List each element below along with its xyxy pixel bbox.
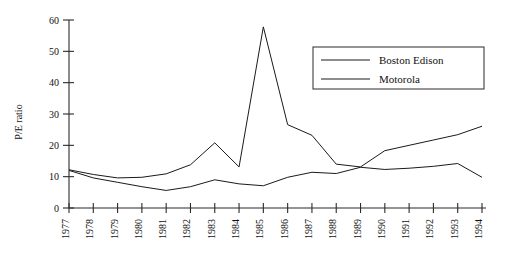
chart-canvas: 0102030405060197719781979198019811982198… (0, 0, 507, 266)
legend-label-boston-edison: Boston Edison (379, 54, 444, 66)
y-tick-label: 40 (49, 77, 59, 88)
y-tick-label: 50 (49, 46, 59, 57)
x-tick-label: 1981 (157, 219, 168, 239)
pe-ratio-line-chart: 0102030405060197719781979198019811982198… (0, 0, 507, 266)
y-tick-label: 0 (54, 203, 59, 214)
x-tick-label: 1991 (400, 219, 411, 239)
y-tick-label: 10 (49, 171, 59, 182)
y-tick-label: 20 (49, 140, 59, 151)
x-tick-label: 1992 (424, 219, 435, 239)
x-tick-label: 1990 (376, 219, 387, 239)
x-tick-label: 1987 (303, 219, 314, 239)
x-tick-label: 1982 (181, 219, 192, 239)
y-tick-label: 30 (49, 109, 59, 120)
x-tick-label: 1978 (84, 219, 95, 239)
x-tick-label: 1985 (254, 219, 265, 239)
series-line-boston-edison (69, 164, 482, 191)
x-tick-label: 1994 (473, 219, 484, 239)
x-tick-label: 1989 (352, 219, 363, 239)
x-tick-label: 1984 (230, 219, 241, 239)
x-tick-label: 1979 (109, 219, 120, 239)
x-tick-label: 1980 (133, 219, 144, 239)
x-tick-label: 1993 (449, 219, 460, 239)
x-tick-label: 1988 (327, 219, 338, 239)
x-tick-label: 1977 (60, 219, 71, 239)
legend-label-motorola: Motorola (379, 73, 420, 85)
y-tick-label: 60 (49, 15, 59, 26)
x-tick-label: 1986 (279, 219, 290, 239)
y-axis-title: P/E ratio (13, 104, 24, 139)
x-tick-label: 1983 (206, 219, 217, 239)
